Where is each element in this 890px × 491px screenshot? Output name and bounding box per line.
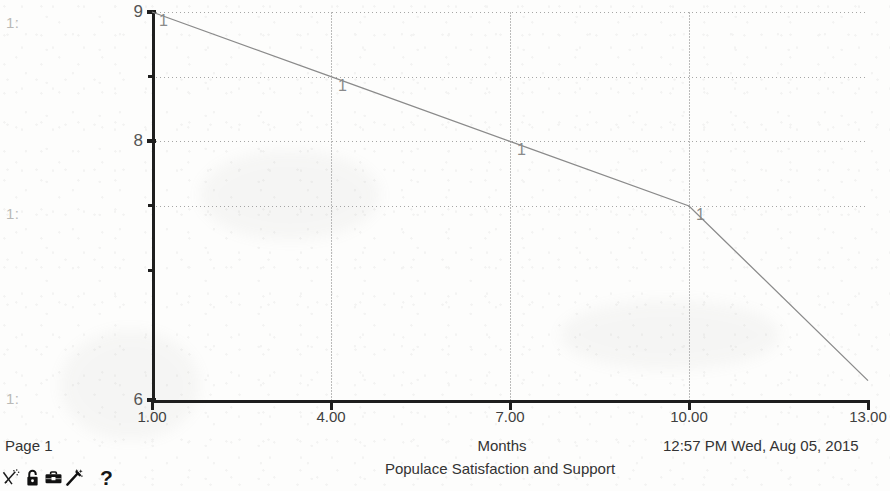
chart-title: Populace Satisfaction and Support — [385, 460, 615, 477]
x-axis-title: Months — [477, 437, 526, 454]
x-axis-tick-label: 7.00 — [495, 408, 524, 425]
margin-annotation: 1: — [6, 390, 20, 407]
y-axis-tick-label: 6 — [134, 390, 143, 410]
page-label: Page 1 — [5, 437, 53, 454]
report-page: 1:1:1: 986 1.004.007.0010.0013.00 1111 P… — [0, 0, 890, 491]
x-axis-tick-label: 13.00 — [849, 408, 887, 425]
bottom-toolbar: ? — [2, 468, 113, 487]
y-axis-tick-label: 8 — [134, 131, 143, 151]
series-line — [152, 12, 868, 401]
magic-wand-icon[interactable] — [65, 468, 84, 487]
help-icon[interactable]: ? — [100, 468, 113, 487]
margin-annotation: 1: — [6, 14, 20, 31]
toolbox-icon[interactable] — [44, 468, 63, 487]
x-axis-tick-label: 4.00 — [316, 408, 345, 425]
chart-plot-area: 986 1.004.007.0010.0013.00 1111 — [152, 12, 868, 400]
no-draw-icon[interactable] — [2, 468, 21, 487]
x-axis-tick-label: 1.00 — [137, 408, 166, 425]
margin-annotation: 1: — [6, 205, 20, 222]
y-axis-tick-label: 9 — [134, 2, 143, 22]
lock-icon[interactable] — [23, 468, 42, 487]
report-timestamp: 12:57 PM Wed, Aug 05, 2015 — [663, 437, 859, 454]
x-axis-tick-label: 10.00 — [670, 408, 708, 425]
